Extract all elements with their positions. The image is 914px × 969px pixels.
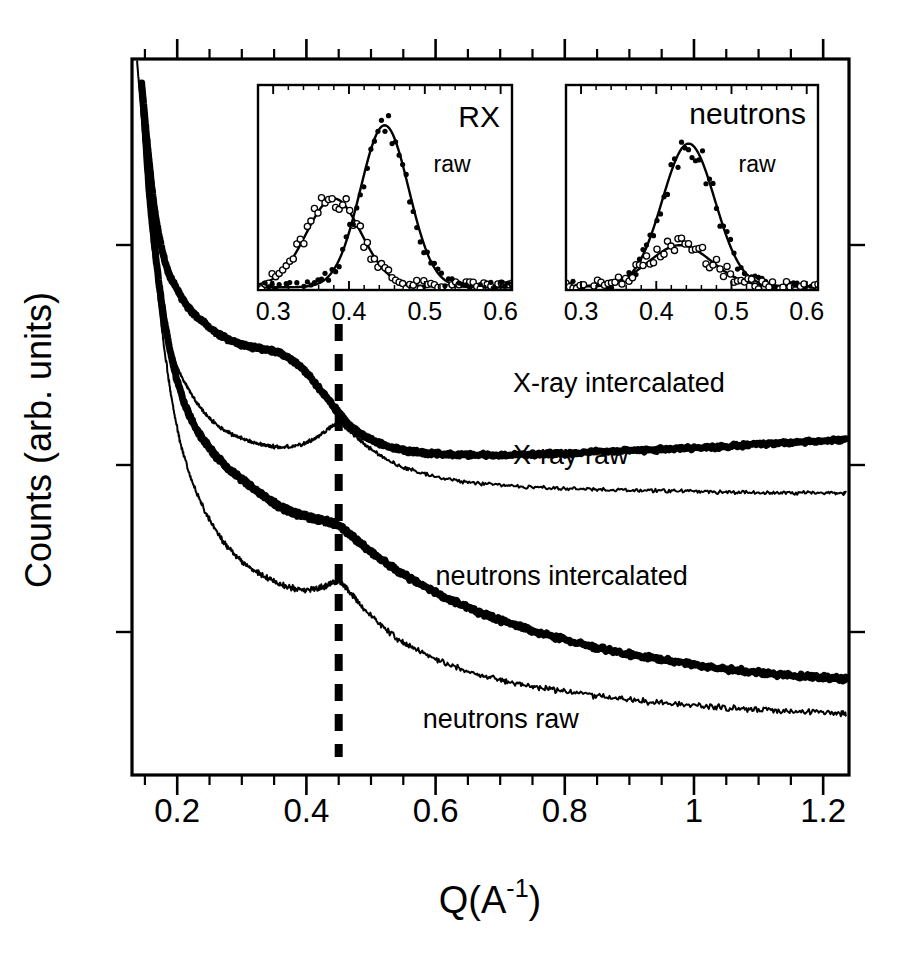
data-point (644, 242, 649, 247)
data-point (661, 251, 667, 257)
data-point (700, 148, 705, 153)
data-point (322, 271, 327, 276)
inset-tick-label-0.4: 0.4 (332, 297, 367, 325)
x-axis-title: Q(A-1) (439, 874, 541, 921)
data-point (439, 271, 444, 276)
inset-rx: 0.30.40.50.6 RX raw (256, 85, 518, 325)
x-tick-label-0.2: 0.2 (154, 792, 200, 829)
data-point (290, 256, 296, 262)
data-point (707, 176, 712, 181)
data-point (728, 237, 733, 242)
data-point (717, 266, 723, 272)
data-point (361, 184, 366, 189)
chart-canvas: 0.20.40.60.811.2 X-ray intercalatedX-ray… (0, 0, 914, 969)
data-point (400, 162, 405, 167)
data-point (654, 246, 660, 252)
data-point (678, 235, 684, 241)
data-point (640, 247, 645, 252)
x-axis-tick-labels: 0.20.40.60.811.2 (154, 792, 846, 829)
data-point (386, 113, 391, 118)
data-point (570, 279, 575, 284)
x-axis-ticks-bottom (145, 775, 823, 795)
data-point (344, 234, 349, 239)
data-point (308, 218, 314, 224)
data-point (703, 181, 708, 186)
data-point (329, 196, 335, 202)
data-point (418, 239, 423, 244)
data-point (368, 147, 373, 152)
data-point (671, 247, 677, 253)
data-point (277, 282, 282, 287)
data-point (727, 271, 733, 277)
inset-tick-label-0.3: 0.3 (564, 297, 599, 325)
y-axis-ticks-right (849, 245, 865, 632)
data-point (724, 229, 729, 234)
data-point (371, 256, 377, 262)
data-point (672, 156, 677, 161)
data-point (262, 280, 267, 285)
data-point (506, 280, 511, 285)
x-tick-label-1: 1 (685, 792, 703, 829)
data-point (301, 241, 307, 247)
data-point (337, 264, 342, 269)
data-point (365, 166, 370, 171)
data-point (414, 277, 420, 283)
data-point (351, 222, 356, 227)
data-point (724, 263, 730, 269)
data-point (721, 223, 726, 228)
data-point (372, 139, 377, 144)
data-point (488, 280, 493, 285)
data-point (769, 279, 775, 285)
inset-tick-label-0.6: 0.6 (789, 297, 824, 325)
data-point (679, 140, 684, 145)
data-point (407, 199, 412, 204)
data-point (364, 239, 370, 245)
data-point (720, 273, 726, 279)
data-point (640, 262, 646, 268)
data-point (347, 207, 353, 213)
x-tick-label-0.6: 0.6 (413, 792, 459, 829)
data-point (710, 181, 715, 186)
data-point (731, 251, 736, 256)
data-point (675, 165, 680, 170)
data-point (340, 247, 345, 252)
neutrons-intercalated-label: neutrons intercalated (436, 561, 688, 591)
data-point (354, 205, 359, 210)
inset-tick-label-0.4: 0.4 (639, 297, 674, 325)
data-point (385, 267, 391, 273)
data-point (713, 256, 719, 262)
inset-neutrons: 0.30.40.50.6 neutrons raw (563, 85, 824, 325)
data-point (478, 282, 483, 287)
inset-rx-subtitle: raw (433, 151, 470, 177)
data-point (615, 274, 621, 280)
inset-tick-label-0.3: 0.3 (256, 297, 291, 325)
data-point (432, 261, 437, 266)
data-point (333, 269, 338, 274)
data-point (435, 266, 440, 271)
x-ray-raw-label: X-ray raw (513, 440, 629, 470)
data-point (340, 202, 346, 208)
data-point (411, 209, 416, 214)
data-point (442, 283, 447, 288)
data-point (637, 257, 642, 262)
data-point (699, 244, 705, 250)
inset-tick-label-0.6: 0.6 (483, 297, 518, 325)
inset-neutrons-subtitle: raw (738, 151, 775, 177)
inset-tick-label-0.5: 0.5 (407, 297, 442, 325)
data-point (748, 276, 754, 282)
data-point (397, 153, 402, 158)
data-point (714, 206, 719, 211)
inset-tick-label-0.5: 0.5 (714, 297, 749, 325)
data-point (357, 223, 363, 229)
y-axis-title: Counts (arb. units) (18, 292, 59, 588)
x-ray-intercalated-label: X-ray intercalated (513, 368, 725, 398)
data-point (650, 260, 656, 266)
inset-rx-title: RX (458, 100, 500, 133)
data-point (343, 196, 349, 202)
inset-neutrons-title: neutrons (689, 97, 806, 130)
data-point (393, 139, 398, 144)
data-point (425, 249, 430, 254)
data-point (319, 277, 324, 282)
data-point (315, 210, 321, 216)
x-tick-label-0.4: 0.4 (283, 792, 329, 829)
